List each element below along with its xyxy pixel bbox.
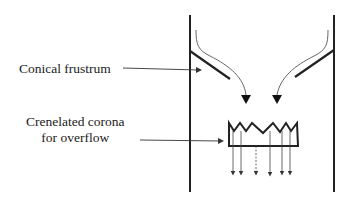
corona-leader-line [140,140,221,141]
crenelated-corona [229,123,298,146]
left-flow-curve [196,30,246,95]
overflow-arrows [233,131,290,174]
right-flow-curve [277,30,328,95]
frustum-leader-line [123,68,199,70]
left-flow-arrowhead [241,95,251,104]
diagram-canvas [0,0,352,205]
left-conical-plate [190,51,230,79]
right-flow-arrowhead [272,95,282,104]
